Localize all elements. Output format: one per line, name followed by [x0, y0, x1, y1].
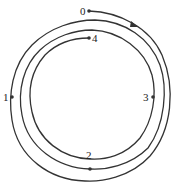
- spiral-diagram: 0 1 2 3 4: [0, 0, 179, 184]
- point-2: [88, 167, 92, 171]
- point-0: [87, 9, 91, 13]
- label-1: 1: [3, 91, 9, 103]
- label-3: 3: [143, 91, 149, 103]
- point-1: [10, 95, 14, 99]
- label-0: 0: [80, 5, 86, 17]
- point-3: [151, 95, 155, 99]
- label-4: 4: [92, 32, 98, 44]
- direction-arrow-icon: [130, 21, 138, 27]
- point-4: [87, 36, 91, 40]
- label-2: 2: [86, 149, 92, 161]
